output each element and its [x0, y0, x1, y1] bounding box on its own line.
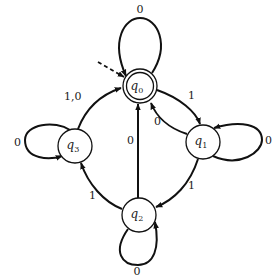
edge-label-q3-self: 0	[14, 136, 21, 149]
edge-q2-q3	[81, 163, 122, 209]
state-q2: q2	[122, 198, 156, 232]
edge-label-q1-self: 0	[265, 134, 272, 147]
edge-label-q3-q0: 1,0	[64, 90, 82, 103]
edge-label-q2-self: 0	[134, 265, 141, 278]
edge-label-q2-q0: 0	[127, 134, 134, 147]
state-q1: q1	[186, 125, 220, 159]
edge-q0-self	[119, 18, 161, 76]
state-q0: q0	[123, 69, 157, 103]
edge-label-q0-q1: 1	[188, 89, 195, 102]
edge-label-q1-q2: 1	[188, 179, 195, 192]
edge-q3-q0	[78, 88, 121, 129]
initial-arrow	[98, 62, 124, 77]
state-q2-sub: 2	[138, 214, 143, 223]
edge-label-q1-q0: 0	[154, 115, 161, 128]
edge-label-q2-q3: 1	[89, 189, 96, 202]
state-q1-sub: 1	[202, 141, 207, 150]
edge-label-q0-self: 0	[137, 3, 144, 16]
state-diagram: 0 1 0 0 1 0 0 1 0 1,0 q0 q1 q2 q3	[0, 0, 280, 278]
state-q3: q3	[58, 129, 92, 163]
state-q3-sub: 3	[74, 145, 79, 154]
state-q0-sub: 0	[138, 86, 143, 95]
